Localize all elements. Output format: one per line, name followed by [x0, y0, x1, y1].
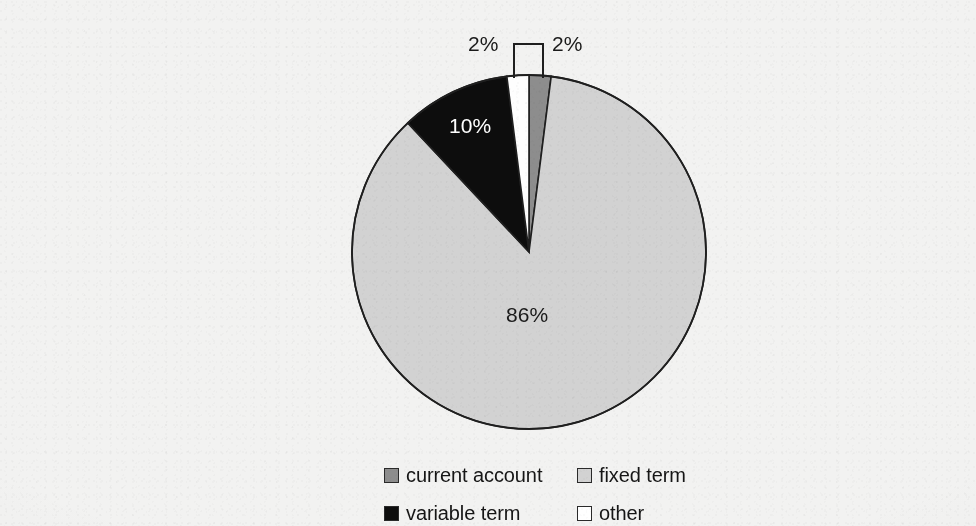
legend-label-variable-term: variable term [406, 502, 520, 525]
legend-item-fixed-term[interactable]: fixed term [577, 464, 714, 487]
pie-slices [352, 75, 706, 429]
legend-label-fixed-term: fixed term [599, 464, 686, 487]
legend-item-current-account[interactable]: current account [384, 464, 577, 487]
pie-chart-graphic [40, 16, 976, 526]
legend-label-other: other [599, 502, 644, 525]
chart-legend: current account fixed term variable term… [384, 456, 714, 526]
current-account-leader-line [522, 44, 543, 78]
legend-swatch-other-icon [577, 506, 592, 521]
legend-swatch-fixed-term-icon [577, 468, 592, 483]
fixed-term-value-label: 86% [506, 303, 548, 327]
legend-label-current-account: current account [406, 464, 542, 487]
other-value-label: 2% [468, 32, 499, 56]
legend-swatch-current-account-icon [384, 468, 399, 483]
variable-term-value-label: 10% [449, 114, 491, 138]
current-account-value-label: 2% [552, 32, 583, 56]
legend-swatch-variable-term-icon [384, 506, 399, 521]
other-leader-line [514, 44, 535, 78]
legend-item-variable-term[interactable]: variable term [384, 502, 577, 525]
legend-item-other[interactable]: other [577, 502, 714, 525]
pie-chart-figure: 2% 2% 10% 86% current account fixed term… [40, 16, 936, 510]
